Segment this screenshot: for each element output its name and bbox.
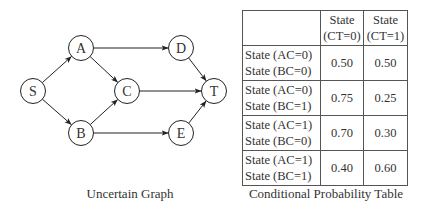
- row-header-line1: State (AC=0): [245, 47, 318, 63]
- node-b: B: [69, 121, 94, 146]
- node-a: A: [69, 36, 94, 61]
- row-header-line1: State (AC=1): [245, 117, 318, 133]
- node-label: D: [176, 41, 186, 56]
- node-s: S: [21, 79, 46, 104]
- row-header-line2: State (BC=0): [245, 63, 318, 79]
- row-header-line2: State (BC=1): [245, 98, 318, 114]
- table-cell: 0.60: [364, 151, 408, 186]
- node-label: C: [122, 84, 131, 99]
- table-row: State (AC=0) State (BC=1) 0.75 0.25: [243, 81, 408, 116]
- col-header-line1: State: [364, 12, 407, 28]
- col-header-line2: (CT=0): [321, 28, 363, 44]
- table-cell: 0.30: [364, 116, 408, 151]
- row-header: State (AC=0) State (BC=1): [243, 81, 321, 116]
- table-row: State (AC=1) State (BC=1) 0.40 0.60: [243, 151, 408, 186]
- col-header-line1: State: [321, 12, 363, 28]
- row-header: State (AC=1) State (BC=1): [243, 151, 321, 186]
- edge-s-a: [42, 56, 71, 82]
- table-corner-cell: [243, 11, 321, 46]
- row-header-line1: State (AC=0): [245, 82, 318, 98]
- row-header-line1: State (AC=1): [245, 152, 318, 168]
- edge-e-t: [189, 101, 207, 123]
- table-cell: 0.50: [321, 46, 364, 81]
- table-cell: 0.25: [364, 81, 408, 116]
- node-c: C: [115, 79, 140, 104]
- node-d: D: [169, 36, 194, 61]
- table-header-row: State (CT=0) State (CT=1): [243, 11, 408, 46]
- edge-s-b: [42, 99, 71, 125]
- edge-d-t: [189, 58, 207, 81]
- row-header-line2: State (BC=1): [245, 168, 318, 184]
- table-cell: 0.40: [321, 151, 364, 186]
- node-label: B: [76, 126, 85, 141]
- node-t: T: [202, 79, 227, 104]
- table-row: State (AC=0) State (BC=0) 0.50 0.50: [243, 46, 408, 81]
- node-label: E: [177, 126, 186, 141]
- edge-a-c: [90, 57, 118, 83]
- col-header-ct0: State (CT=0): [321, 11, 364, 46]
- table-cell: 0.70: [321, 116, 364, 151]
- node-label: T: [210, 84, 219, 99]
- col-header-line2: (CT=1): [364, 28, 407, 44]
- edge-b-c: [90, 99, 118, 124]
- node-label: S: [29, 84, 37, 99]
- uncertain-graph: SABCDET: [0, 0, 240, 202]
- row-header: State (AC=0) State (BC=0): [243, 46, 321, 81]
- node-label: A: [76, 41, 87, 56]
- conditional-probability-table: State (CT=0) State (CT=1) State (AC=0) S…: [242, 10, 408, 186]
- table-cell: 0.50: [364, 46, 408, 81]
- table-caption: Conditional Probability Table: [236, 186, 416, 202]
- table-row: State (AC=1) State (BC=0) 0.70 0.30: [243, 116, 408, 151]
- node-e: E: [169, 121, 194, 146]
- table-cell: 0.75: [321, 81, 364, 116]
- graph-caption: Uncertain Graph: [40, 186, 220, 202]
- col-header-ct1: State (CT=1): [364, 11, 408, 46]
- row-header: State (AC=1) State (BC=0): [243, 116, 321, 151]
- row-header-line2: State (BC=0): [245, 133, 318, 149]
